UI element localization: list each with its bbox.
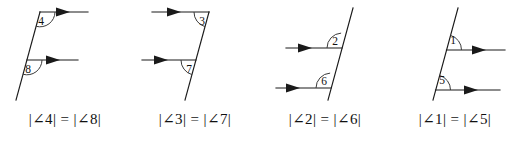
- transversal-line: [185, 12, 209, 100]
- angle-6-label: 6: [321, 75, 327, 87]
- caption-angle-1-5: |∠1| = |∠5|: [390, 110, 520, 128]
- geometry-figure-sheet: 4 8 |∠4| = |∠8| 3 7 |∠3| = |∠7|: [0, 0, 520, 145]
- upper-ray-arrowhead-icon: [167, 8, 181, 17]
- angle-2-label: 2: [332, 35, 338, 47]
- angle-7-label: 7: [186, 63, 192, 75]
- caption-angle-4-8: |∠4| = |∠8|: [0, 110, 130, 128]
- diagram-angle-1-5: 1 5: [390, 0, 520, 110]
- angle-3-label: 3: [199, 15, 205, 27]
- panel-angle-2-6: 2 6 |∠2| = |∠6|: [260, 0, 390, 145]
- caption-angle-2-6: |∠2| = |∠6|: [260, 110, 390, 128]
- lower-ray-arrowhead-icon: [286, 84, 300, 93]
- lower-ray-arrowhead-icon: [154, 56, 168, 65]
- upper-ray-arrowhead-icon: [298, 44, 312, 53]
- angle-4-label: 4: [38, 15, 44, 27]
- diagram-angle-2-6: 2 6: [260, 0, 390, 110]
- diagram-angle-3-7: 3 7: [130, 0, 260, 110]
- transversal-line: [16, 12, 40, 100]
- panel-angle-4-8: 4 8 |∠4| = |∠8|: [0, 0, 130, 145]
- panel-angle-1-5: 1 5 |∠1| = |∠5|: [390, 0, 520, 145]
- upper-ray-arrowhead-icon: [472, 46, 486, 55]
- upper-ray-arrowhead-icon: [56, 8, 70, 17]
- lower-ray-arrowhead-icon: [46, 56, 60, 65]
- lower-ray-arrowhead-icon: [464, 86, 478, 95]
- angle-8-label: 8: [25, 63, 31, 75]
- diagram-angle-4-8: 4 8: [0, 0, 130, 110]
- panel-angle-3-7: 3 7 |∠3| = |∠7|: [130, 0, 260, 145]
- angle-1-label: 1: [450, 34, 456, 46]
- transversal-line: [328, 8, 353, 100]
- caption-angle-3-7: |∠3| = |∠7|: [130, 110, 260, 128]
- angle-5-label: 5: [439, 74, 445, 86]
- transversal-line: [433, 8, 458, 100]
